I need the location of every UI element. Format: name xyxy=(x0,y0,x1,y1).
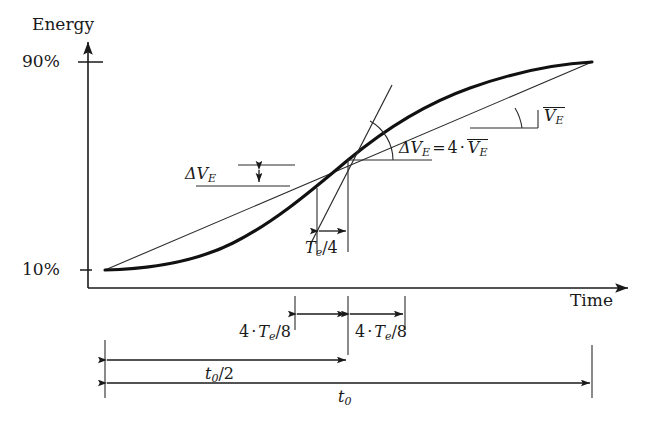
dim-right-dot: · xyxy=(367,322,372,341)
delta-ve-equation: ΔVE=4·VE xyxy=(399,139,488,159)
diagram-canvas xyxy=(0,0,663,426)
vbar-ve-label: VE xyxy=(543,107,565,127)
t0-full-subscript: 0 xyxy=(344,395,351,408)
x-axis-label: Time xyxy=(570,292,613,309)
dim-left-dot: · xyxy=(251,322,256,341)
equation-rhs-symbol: V xyxy=(468,138,480,157)
vbar-angle-construction xyxy=(470,108,538,128)
delta-ve-label: ΔVE xyxy=(185,166,216,184)
t0-half-tail: /2 xyxy=(218,364,234,383)
delta-ve-subscript: E xyxy=(208,172,216,185)
y-tick-10: 10% xyxy=(22,261,60,278)
dim-right-T: T xyxy=(374,322,385,341)
equation-dot: · xyxy=(460,138,465,157)
equation-lhs-subscript: E xyxy=(422,146,430,159)
vbar-subscript: E xyxy=(556,114,564,127)
dim-right-factor: 4 xyxy=(355,322,365,341)
te-quarter-symbol: T xyxy=(305,238,316,257)
equation-rhs-subscript: E xyxy=(479,146,487,159)
dim-left-tail: /8 xyxy=(275,322,291,341)
equation-equals: = xyxy=(432,138,445,157)
dimension-label-t0-full: t0 xyxy=(338,389,351,407)
y-tick-90: 90% xyxy=(22,53,60,70)
te-quarter-tail: /4 xyxy=(322,238,338,257)
equation-lhs-symbol: ΔV xyxy=(399,138,422,157)
dim-left-factor: 4 xyxy=(239,322,249,341)
energy-time-diagram: Energy Time 90% 10% ΔVE ΔVE=4·VE VE Te/4… xyxy=(0,0,663,426)
te-quarter-label: Te/4 xyxy=(305,240,338,258)
dim-right-tail: /8 xyxy=(391,322,407,341)
dimension-label-te8-right: 4·Te/8 xyxy=(355,324,407,342)
y-axis-label: Energy xyxy=(32,16,94,33)
inflection-tangent-line xyxy=(310,85,392,245)
dim-left-T: T xyxy=(258,322,269,341)
dimension-label-te8-left: 4·Te/8 xyxy=(239,324,291,342)
vbar-symbol: V xyxy=(544,106,556,125)
equation-factor: 4 xyxy=(448,138,458,157)
dimension-label-t0-half: t0/2 xyxy=(205,366,234,384)
delta-ve-symbol: ΔV xyxy=(185,164,208,183)
